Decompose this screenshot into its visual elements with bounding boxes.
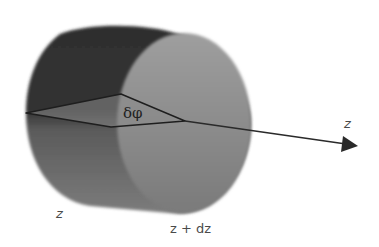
cylinder-diagram: δφ z z z + dz [0, 0, 379, 247]
angle-label: δφ [123, 104, 143, 122]
axis-label: z [343, 116, 352, 131]
left-face-label: z [55, 206, 64, 221]
right-face-label: z + dz [170, 221, 211, 236]
z-axis-arrowhead-icon [341, 136, 358, 152]
